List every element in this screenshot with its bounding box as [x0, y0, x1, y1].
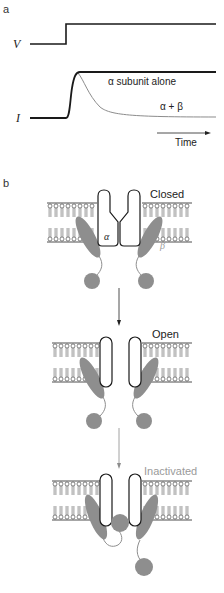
alpha-subunit-right-inact — [129, 474, 141, 526]
alpha-subunit-left-open — [100, 337, 112, 387]
inactivation-ball-left-open — [86, 413, 102, 429]
closed-state-diagram — [47, 190, 192, 289]
inactivation-ball-right-open — [136, 413, 152, 429]
state-label-inactivated: Inactivated — [144, 465, 197, 477]
inactivation-ball-plugging-pore — [111, 514, 129, 532]
alpha-subunit-right-open — [129, 337, 141, 387]
state-label-open: Open — [152, 328, 179, 340]
time-arrow-icon — [157, 131, 211, 135]
alpha-subunit-right — [120, 190, 140, 246]
voltage-trace — [30, 24, 216, 44]
current-trace-alpha — [30, 72, 216, 118]
state-label-closed: Closed — [150, 188, 184, 200]
inactivation-ball-right — [138, 273, 154, 289]
inactivation-ball-left — [84, 273, 100, 289]
panel-b-label: b — [3, 177, 9, 189]
beta-label: β — [160, 240, 165, 251]
arrow-open-to-inactivated-icon — [117, 428, 121, 469]
figure-svg — [0, 0, 224, 593]
alpha-subunit-left-inact — [100, 474, 112, 526]
inactivated-state-diagram — [52, 474, 192, 576]
inactivation-ball-right-inact — [135, 558, 153, 576]
alpha-label: α — [104, 231, 109, 242]
open-state-diagram — [52, 337, 192, 429]
current-trace-alpha-beta — [78, 73, 216, 117]
arrow-closed-to-open-icon — [117, 288, 121, 326]
